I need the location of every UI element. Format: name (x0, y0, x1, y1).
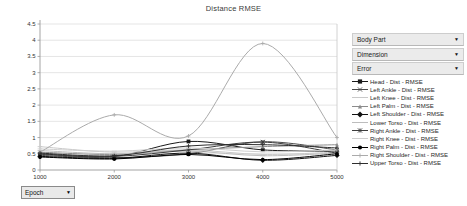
dimension-dropdown[interactable]: Dimension ▼ (352, 48, 464, 61)
legend-item[interactable]: Left Ankle - Dist - RMSE (352, 86, 464, 94)
epoch-dropdown[interactable]: Epoch ▼ (21, 186, 75, 199)
legend-item[interactable]: Right Palm - Dist - RMSE (352, 143, 464, 151)
legend-item-label: Upper Torso - Dist - RMSE (370, 160, 441, 166)
legend-item[interactable]: Left Knee - Dist - RMSE (352, 94, 464, 102)
legend-marker-dash-icon (352, 135, 368, 142)
legend-marker-plus-icon (352, 152, 368, 159)
legend-item-label: Right Shoulder - Dist - RMSE (370, 152, 448, 158)
legend-marker-diamond-icon (352, 111, 368, 118)
legend-marker-dash-icon (352, 94, 368, 101)
chevron-down-icon: ▼ (454, 37, 459, 42)
y-tick-label: 2 (32, 102, 36, 108)
legend-marker-x-icon (352, 86, 368, 93)
epoch-dropdown-label: Epoch (25, 189, 43, 196)
legend-item[interactable]: Right Knee - Dist - RMSE (352, 135, 464, 143)
legend-item[interactable]: Right Ankle - Dist - RMSE (352, 127, 464, 135)
legend-marker-square-icon (352, 78, 368, 85)
legend: Head - Dist - RMSELeft Ankle - Dist - RM… (352, 78, 464, 168)
legend-item[interactable]: Lower Torso - Dist - RMSE (352, 118, 464, 126)
chevron-down-icon: ▼ (454, 66, 459, 71)
y-tick-label: 3.5 (27, 53, 36, 59)
line-chart: 00.511.522.533.544.510002000300040005000 (0, 0, 350, 200)
y-tick-label: 1.5 (27, 118, 36, 124)
legend-item[interactable]: Right Shoulder - Dist - RMSE (352, 151, 464, 159)
y-tick-label: 1 (32, 135, 36, 141)
y-tick-label: 0.5 (27, 151, 36, 157)
chevron-down-icon: ▼ (454, 52, 459, 57)
legend-item-label: Left Ankle - Dist - RMSE (370, 87, 435, 93)
chart-window: Distance RMSE 00.511.522.533.544.5100020… (0, 0, 467, 206)
x-tick-label: 2000 (108, 174, 122, 180)
legend-item-label: Left Shoulder - Dist - RMSE (370, 111, 444, 117)
legend-item-label: Left Knee - Dist - RMSE (370, 95, 434, 101)
legend-marker-dash-icon (352, 119, 368, 126)
legend-item[interactable]: Left Shoulder - Dist - RMSE (352, 110, 464, 118)
legend-item-label: Right Ankle - Dist - RMSE (370, 128, 439, 134)
legend-item-label: Head - Dist - RMSE (370, 79, 423, 85)
x-tick-label: 1000 (33, 174, 47, 180)
legend-marker-circle-icon (352, 144, 368, 151)
body-part-dropdown[interactable]: Body Part ▼ (352, 33, 464, 46)
legend-marker-plus-icon (352, 160, 368, 167)
x-tick-label: 3000 (182, 174, 196, 180)
dimension-dropdown-label: Dimension (357, 51, 388, 58)
y-tick-label: 4.5 (27, 21, 36, 27)
error-dropdown-label: Error (357, 65, 371, 72)
legend-marker-triangle-icon (352, 103, 368, 110)
legend-item-label: Right Palm - Dist - RMSE (370, 144, 438, 150)
x-tick-label: 5000 (330, 174, 344, 180)
body-part-dropdown-label: Body Part (357, 36, 386, 43)
y-tick-label: 4 (32, 37, 36, 43)
filter-panel: Body Part ▼ Dimension ▼ Error ▼ Head - D… (352, 33, 464, 168)
legend-item[interactable]: Upper Torso - Dist - RMSE (352, 159, 464, 167)
legend-item-label: Right Knee - Dist - RMSE (370, 136, 438, 142)
y-tick-label: 3 (32, 70, 36, 76)
legend-item-label: Lower Torso - Dist - RMSE (370, 120, 441, 126)
legend-item[interactable]: Head - Dist - RMSE (352, 78, 464, 86)
chevron-down-icon: ▼ (66, 190, 71, 195)
y-tick-label: 2.5 (27, 86, 36, 92)
legend-marker-asterisk-icon (352, 127, 368, 134)
y-tick-label: 0 (32, 167, 36, 173)
legend-item[interactable]: Left Palm - Dist - RMSE (352, 102, 464, 110)
error-dropdown[interactable]: Error ▼ (352, 62, 464, 75)
x-tick-label: 4000 (256, 174, 270, 180)
legend-item-label: Left Palm - Dist - RMSE (370, 103, 434, 109)
